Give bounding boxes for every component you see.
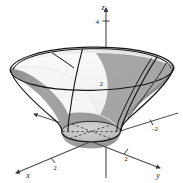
x-tick-2 <box>51 158 55 163</box>
x-axis-label: x <box>25 171 30 180</box>
surface-plot-figure: z 4 2 x 2 y 2 -2 <box>0 0 183 183</box>
y-axis-label: y <box>155 171 160 180</box>
y-axis-negative-line <box>120 113 178 131</box>
z-tick-4-label: 4 <box>96 18 100 26</box>
y-tick-2-label: 2 <box>124 155 128 163</box>
y-tick-neg2-label: -2 <box>152 125 158 133</box>
x-tick-2-label: 2 <box>53 164 57 172</box>
y-tick-2 <box>124 149 128 154</box>
surface-hyperboloid <box>10 48 174 149</box>
y-axis-negative <box>120 113 178 131</box>
z-axis-label: z <box>100 3 105 12</box>
z-tick-2-label: 2 <box>100 80 104 88</box>
surface-plot-canvas: z 4 2 x 2 y 2 -2 <box>0 0 183 183</box>
